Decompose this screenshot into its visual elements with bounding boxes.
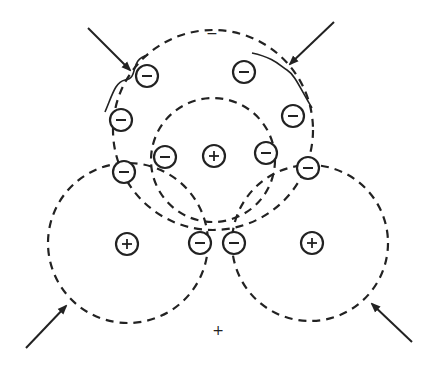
arrow-bottom-left <box>26 306 66 348</box>
arrow-top-left <box>88 28 130 70</box>
force-arrows <box>26 22 412 348</box>
electron-icon <box>255 142 277 164</box>
electron-icon <box>233 61 255 83</box>
electron-icon <box>110 109 132 131</box>
brace-right <box>252 53 312 108</box>
electron-icon <box>154 146 176 168</box>
negative-region-label: − <box>206 26 218 40</box>
electron-icon <box>189 232 211 254</box>
nucleus-icon <box>203 145 225 167</box>
electron-icon <box>297 157 319 179</box>
electron-icon <box>282 105 304 127</box>
arrow-bottom-right <box>372 304 412 342</box>
arrow-top-right <box>290 22 334 64</box>
positive-region-label: + <box>212 323 224 337</box>
electron-icon <box>136 65 158 87</box>
outer-top-orbit <box>113 30 313 230</box>
nucleus-icon <box>301 232 323 254</box>
orbit-circles <box>48 30 388 323</box>
nucleus-icon <box>116 233 138 255</box>
nuclei <box>116 145 323 255</box>
electron-icon <box>113 161 135 183</box>
molecular-orbital-diagram <box>0 0 433 374</box>
braces <box>105 53 312 112</box>
electron-icon <box>223 232 245 254</box>
